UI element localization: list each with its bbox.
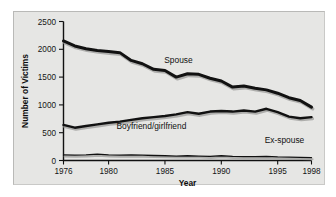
y-tick-label: 2000 [38,45,57,54]
x-tick-label: 1985 [156,167,175,176]
series-label-spouse: Spouse [164,55,193,65]
x-tick-label: 1995 [269,167,288,176]
x-tick-label: 1976 [54,167,73,176]
chart-plot-area: 0500100015002000250019761980198519901995… [0,0,336,197]
x-axis-title: Year [179,178,197,188]
series-line-boyfriend-girlfriend [64,109,312,128]
series-label-ex-spouse: Ex-spouse [265,135,305,145]
y-tick-label: 1000 [38,101,57,110]
y-tick-label: 2500 [38,18,57,27]
x-tick-label: 1980 [99,167,118,176]
series-line-spouse [64,41,312,107]
y-axis-title: Number of Victims [20,54,30,128]
chart-screenshot: 0500100015002000250019761980198519901995… [0,0,336,197]
y-tick-label: 0 [51,157,56,166]
y-tick-label: 1500 [38,73,57,82]
series-shadow-1 [65,43,313,109]
y-tick-label: 500 [42,129,56,138]
line-chart: 0500100015002000250019761980198519901995… [0,0,336,197]
series-label-boyfriend-girlfriend: Boyfriend/girlfriend [117,121,187,131]
x-tick-label: 1998 [302,167,321,176]
x-tick-label: 1990 [212,167,231,176]
